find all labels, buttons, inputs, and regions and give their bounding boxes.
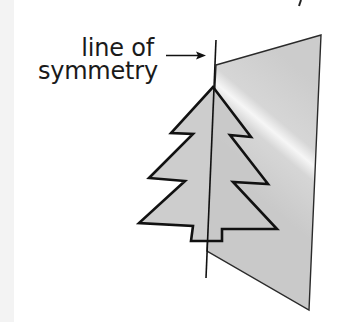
- arrow-icon: [166, 52, 206, 60]
- label-symmetry: symmetry: [38, 59, 158, 83]
- symmetry-figure: [0, 0, 344, 322]
- cutoff-glyph: [299, 0, 301, 6]
